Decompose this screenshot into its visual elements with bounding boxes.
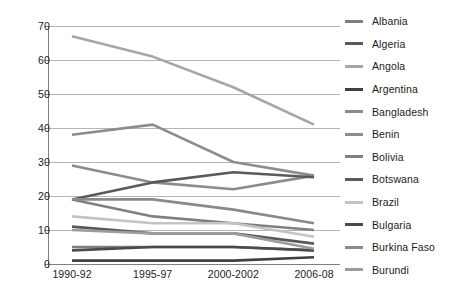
legend-swatch-icon bbox=[345, 20, 363, 23]
legend-item-label: Burkina Faso bbox=[372, 241, 435, 253]
y-tick-label-30: 30 bbox=[14, 157, 50, 167]
legend-swatch-icon bbox=[345, 88, 363, 91]
y-tick-label-60: 60 bbox=[14, 55, 50, 65]
legend-item-argentina[interactable]: Argentina bbox=[345, 78, 457, 101]
legend-item-label: Benin bbox=[372, 128, 399, 140]
plot-svg bbox=[0, 0, 340, 295]
legend-item-bangladesh[interactable]: Bangladesh bbox=[345, 100, 457, 123]
plot-area bbox=[0, 0, 340, 295]
y-tick-label-70: 70 bbox=[14, 21, 50, 31]
legend-item-label: Albania bbox=[372, 15, 408, 27]
x-tick-label-2: 2000-2002 bbox=[208, 268, 259, 280]
legend-swatch-icon bbox=[345, 42, 363, 45]
legend-item-label: Bolivia bbox=[372, 151, 404, 163]
legend-swatch-icon bbox=[345, 110, 363, 113]
chart-legend: AlbaniaAlgeriaAngolaArgentinaBangladeshB… bbox=[345, 10, 457, 281]
series-line-angola bbox=[72, 36, 314, 124]
legend-item-label: Bulgaria bbox=[372, 219, 411, 231]
series-line-argentina bbox=[72, 257, 314, 260]
legend-swatch-icon bbox=[345, 223, 363, 226]
legend-item-label: Argentina bbox=[372, 83, 418, 95]
legend-item-burundi[interactable]: Burundi bbox=[345, 259, 457, 282]
legend-item-bulgaria[interactable]: Bulgaria bbox=[345, 213, 457, 236]
legend-item-benin[interactable]: Benin bbox=[345, 123, 457, 146]
legend-swatch-icon bbox=[345, 268, 363, 271]
legend-swatch-icon bbox=[345, 155, 363, 158]
legend-swatch-icon bbox=[345, 201, 363, 204]
legend-item-label: Burundi bbox=[372, 264, 409, 276]
legend-item-angola[interactable]: Angola bbox=[345, 55, 457, 78]
y-tick-label-10: 10 bbox=[14, 225, 50, 235]
legend-swatch-icon bbox=[345, 178, 363, 181]
y-tick-label-50: 50 bbox=[14, 89, 50, 99]
legend-item-label: Botswana bbox=[372, 173, 419, 185]
x-axis-tick-labels: 1990-921995-972000-20022006-08 bbox=[0, 268, 340, 290]
legend-item-botswana[interactable]: Botswana bbox=[345, 168, 457, 191]
legend-item-algeria[interactable]: Algeria bbox=[345, 33, 457, 56]
line-chart: 706050403020100 1990-921995-972000-20022… bbox=[0, 0, 457, 295]
legend-item-bolivia[interactable]: Bolivia bbox=[345, 146, 457, 169]
y-tick-label-20: 20 bbox=[14, 191, 50, 201]
legend-item-label: Algeria bbox=[372, 38, 405, 50]
series-line-bangladesh bbox=[72, 125, 314, 176]
x-tick-label-0: 1990-92 bbox=[52, 268, 91, 280]
legend-item-brazil[interactable]: Brazil bbox=[345, 191, 457, 214]
legend-swatch-icon bbox=[345, 133, 363, 136]
legend-swatch-icon bbox=[345, 65, 363, 68]
x-tick-label-1: 1995-97 bbox=[133, 268, 172, 280]
y-axis-tick-labels: 706050403020100 bbox=[0, 0, 50, 295]
x-tick-label-3: 2006-08 bbox=[294, 268, 333, 280]
legend-item-albania[interactable]: Albania bbox=[345, 10, 457, 33]
legend-swatch-icon bbox=[345, 246, 363, 249]
legend-item-label: Angola bbox=[372, 60, 405, 72]
y-tick-label-40: 40 bbox=[14, 123, 50, 133]
legend-item-label: Brazil bbox=[372, 196, 399, 208]
legend-item-burkina-faso[interactable]: Burkina Faso bbox=[345, 236, 457, 259]
legend-item-label: Bangladesh bbox=[372, 106, 428, 118]
